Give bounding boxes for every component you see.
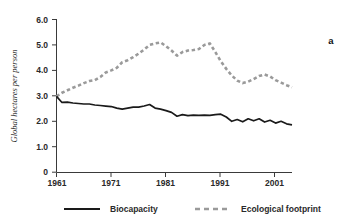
x-tick-label: 1981	[156, 178, 175, 188]
x-tick-label: 1961	[48, 178, 67, 188]
y-tick-label: 6.0	[36, 15, 48, 25]
figure-container: 6.0 5.0 4.0 3.0 2.0 1.0 0 1961 1971 1981…	[0, 0, 350, 222]
x-tick-label: 2001	[265, 178, 284, 188]
line-chart: 6.0 5.0 4.0 3.0 2.0 1.0 0 1961 1971 1981…	[0, 0, 350, 222]
x-axis-ticks: 1961 1971 1981 1991 2001	[48, 173, 285, 189]
y-tick-label: 1.0	[36, 142, 48, 152]
legend-label-biocapacity: Biocapacity	[110, 204, 158, 214]
series-group	[57, 42, 293, 124]
y-tick-label: 0	[43, 167, 48, 177]
y-tick-label: 4.0	[36, 65, 48, 75]
x-tick-label: 1991	[211, 178, 230, 188]
y-tick-label: 3.0	[36, 91, 48, 101]
y-axis-title: Global hectares per person	[9, 50, 19, 143]
y-axis-ticks: 6.0 5.0 4.0 3.0 2.0 1.0 0	[36, 15, 56, 178]
series-line-biocapacity	[57, 96, 293, 125]
y-tick-label: 2.0	[36, 116, 48, 126]
axis-group	[57, 19, 293, 173]
legend-label-ecological-footprint: Ecological footprint	[241, 204, 321, 214]
series-line-ecological-footprint	[57, 42, 293, 96]
y-tick-label: 5.0	[36, 40, 48, 50]
legend: Biocapacity Ecological footprint	[64, 204, 321, 214]
x-tick-label: 1971	[102, 178, 121, 188]
panel-label: a	[328, 35, 334, 46]
